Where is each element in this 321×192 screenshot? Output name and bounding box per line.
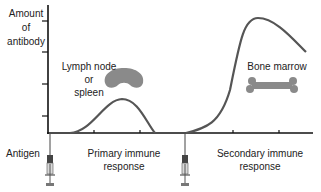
- y-axis-label: Amount of antibody: [4, 8, 48, 47]
- primary-label-line: response: [86, 161, 162, 172]
- primary-response-label: Primary immune response: [86, 148, 162, 172]
- lymph-label-line: or: [58, 74, 120, 85]
- secondary-label-line: Secondary immune: [215, 148, 305, 159]
- y-axis-label-line: of: [4, 22, 48, 33]
- lymph-node-label: Lymph node or spleen: [58, 61, 120, 98]
- secondary-label-line: response: [215, 161, 305, 172]
- lymph-label-line: Lymph node: [58, 61, 120, 72]
- primary-response-curve: [70, 99, 155, 133]
- lymph-label-line: spleen: [58, 87, 120, 98]
- bone-icon: [246, 77, 298, 93]
- syringe-icon: [180, 134, 190, 186]
- y-axis-label-line: Amount: [4, 8, 48, 19]
- bone-marrow-label: Bone marrow: [246, 61, 308, 72]
- primary-label-line: Primary immune: [86, 148, 162, 159]
- antigen-label: Antigen: [6, 148, 40, 159]
- y-axis-label-line: antibody: [4, 36, 48, 47]
- syringe-icon: [45, 134, 55, 186]
- secondary-response-label: Secondary immune response: [215, 148, 305, 172]
- secondary-response-curve: [186, 18, 306, 133]
